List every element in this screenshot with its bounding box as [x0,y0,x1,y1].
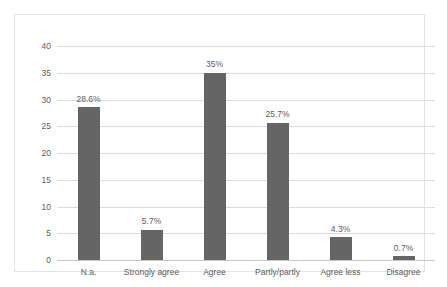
x-axis-tick-label: Agree less [320,267,360,277]
y-axis-tick-label: 40 [25,42,51,51]
x-axis-tick-label: Disagree [386,267,420,277]
chart-frame: 0510152025303540 28.6%5.7%35%25.7%4.3%0.… [14,14,425,272]
bar [141,230,163,260]
y-axis-tick-label: 5 [25,229,51,238]
y-axis-tick-label: 15 [25,176,51,185]
bar-group: 5.7% [120,46,183,260]
bar-value-label: 35% [206,60,223,69]
x-axis: N.a.Strongly agreeAgreePartly/partlyAgre… [57,267,435,281]
bar-group: 4.3% [309,46,372,260]
x-axis-tick-label: N.a. [81,267,97,277]
bar-group: 0.7% [372,46,435,260]
bar [330,237,352,260]
bar [78,107,100,260]
bar-value-label: 0.7% [394,244,413,253]
bar-value-label: 4.3% [331,225,350,234]
axis-baseline [57,260,435,261]
y-axis-tick-label: 20 [25,149,51,158]
bar-group: 25.7% [246,46,309,260]
y-axis-tick-label: 30 [25,95,51,104]
bar [393,256,415,260]
y-axis-tick-label: 25 [25,122,51,131]
bar-value-label: 5.7% [142,217,161,226]
bar-group: 35% [183,46,246,260]
bar [204,73,226,260]
x-axis-tick-label: Agree [203,267,226,277]
y-axis-tick-label: 10 [25,202,51,211]
x-axis-tick-label: Strongly agree [124,267,179,277]
bar-value-label: 28.6% [76,95,100,104]
y-axis: 0510152025303540 [23,46,51,260]
x-axis-tick-label: Partly/partly [255,267,300,277]
bar-chart: 0510152025303540 28.6%5.7%35%25.7%4.3%0.… [0,0,447,287]
bar [267,123,289,260]
plot-area: 28.6%5.7%35%25.7%4.3%0.7% [57,46,435,260]
bar-group: 28.6% [57,46,120,260]
y-axis-tick-label: 0 [25,256,51,265]
y-axis-tick-label: 35 [25,69,51,78]
bar-value-label: 25.7% [265,110,289,119]
